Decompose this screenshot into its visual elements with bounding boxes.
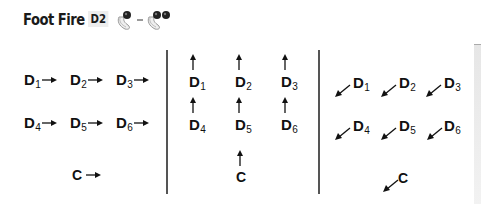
diagram-label: D2: [235, 74, 252, 92]
arrow-down-left-icon: [335, 127, 351, 141]
diagram-label: D1: [24, 72, 41, 90]
diagram-label: D5: [70, 115, 87, 133]
diagram-label: D3: [444, 75, 461, 93]
arrow-up-icon: [236, 150, 244, 166]
diagram-label: D1: [353, 75, 370, 93]
level-badge: D2: [88, 11, 109, 27]
arrow-right-icon: [134, 76, 150, 84]
arrow-right-icon: [88, 76, 104, 84]
diagram-label: D1: [189, 74, 206, 92]
diagram-label: D2: [399, 75, 416, 93]
diagram-label: D5: [399, 118, 416, 136]
arrow-down-left-icon: [381, 84, 397, 98]
arrow-up-icon: [281, 54, 289, 70]
diagram-title: Foot Fire: [23, 10, 85, 29]
diagram-label: D6: [444, 118, 461, 136]
diagram-label: D4: [24, 115, 41, 133]
diagram-label: D6: [116, 115, 133, 133]
diagram-label: D4: [189, 117, 206, 135]
arrow-up-icon: [235, 97, 243, 113]
diagram-label: C: [236, 170, 246, 184]
arrow-up-icon: [189, 97, 197, 113]
arrow-right-icon: [86, 171, 102, 179]
hand-two-balls-icon: [145, 9, 173, 31]
panel-divider: [318, 50, 320, 194]
diagram-label: D3: [281, 74, 298, 92]
diagram-label: D6: [281, 117, 298, 135]
arrow-right-icon: [42, 119, 58, 127]
arrow-up-icon: [189, 54, 197, 70]
arrow-down-left-icon: [381, 127, 397, 141]
arrow-down-left-icon: [427, 127, 443, 141]
diagram-label: C: [398, 171, 408, 185]
diagram-label: D2: [70, 72, 87, 90]
arrow-up-icon: [281, 97, 289, 113]
diagram-label: C: [72, 168, 82, 182]
arrow-right-icon: [134, 119, 150, 127]
arrow-right-icon: [88, 119, 104, 127]
arrow-down-left-icon: [383, 179, 399, 193]
arrow-down-left-icon: [426, 84, 442, 98]
arrow-right-icon: [42, 76, 58, 84]
diagram-label: D5: [235, 117, 252, 135]
hand-one-ball-icon: [115, 9, 137, 31]
panel-divider: [166, 50, 168, 194]
arrow-down-left-icon: [335, 84, 351, 98]
transition-dash: [137, 19, 143, 21]
diagram-label: D3: [116, 72, 133, 90]
side-strip: [474, 44, 481, 204]
diagram-label: D4: [353, 118, 370, 136]
arrow-up-icon: [235, 54, 243, 70]
